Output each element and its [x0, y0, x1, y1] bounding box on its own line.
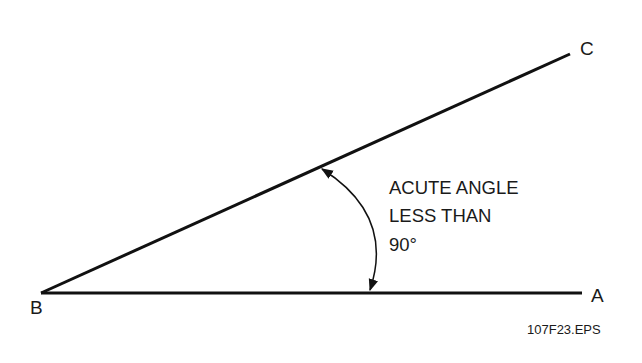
figure-id: 107F23.EPS	[527, 322, 601, 337]
acute-angle-diagram: B A C ACUTE ANGLE LESS THAN 90° 107F23.E…	[0, 0, 642, 363]
vertex-label-a: A	[591, 285, 604, 306]
vertex-label-c: C	[580, 38, 594, 59]
ray-bc	[41, 54, 570, 293]
annotation-line-1: ACUTE ANGLE	[389, 177, 519, 198]
annotation-line-2: LESS THAN	[389, 205, 491, 226]
vertex-label-b: B	[30, 297, 43, 318]
annotation-line-3: 90°	[389, 234, 417, 255]
angle-arc-arrow	[322, 169, 376, 290]
